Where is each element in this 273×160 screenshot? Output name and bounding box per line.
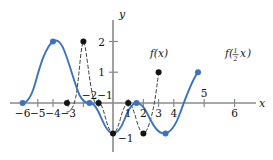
annotation-f-of-half-x-prefix: f( [224,47,234,59]
point-black-1-0 [125,100,131,106]
x-tick-label-6: 6 [231,107,238,119]
x-tick-label-neg5: −5 [30,107,45,119]
point-black-neg3-0 [64,100,70,106]
x-tick-label-1: 1 [125,107,132,119]
y-tick-label-1: 1 [98,66,105,78]
point-blue-6-1 [195,69,201,75]
point-black-2-neg1 [140,131,146,137]
y-axis-label: y [118,8,126,21]
annotation-f-of-x: f(x) [149,47,168,59]
x-tick-label-neg1: −1 [97,89,112,101]
marked-points-f-of-half-x [20,39,201,137]
point-black-peak-2 [80,39,86,45]
point-black-3-1 [156,69,162,75]
x-tick-label-neg4: −4 [45,107,61,119]
graph-svg: y x 2 1 −1 −6 −5 −4 −3 −2 −1 1 2 3 4 6 5… [0,0,273,160]
point-blue-neg4-2 [50,39,56,45]
curve-f-of-half-x [23,40,198,133]
x-tick-label-4: 4 [170,107,177,119]
x-tick-label-neg6: −6 [15,107,31,119]
y-tick-label-neg1: −1 [118,132,133,144]
function-graph-figure: y x 2 1 −1 −6 −5 −4 −3 −2 −1 1 2 3 4 6 5… [0,0,273,160]
annotation-f-of-half-x: f( 1 2 x ) [224,47,251,63]
x-axis-label: x [259,97,266,110]
point-blue-2-0 [134,100,140,106]
annotation-f-of-half-x-suffix: ) [246,47,251,59]
x-tick-label-5: 5 [201,87,208,99]
y-tick-label-2: 2 [98,36,105,48]
annotation-f-of-half-x-denominator: 2 [232,55,237,63]
x-tick-label-neg3: −3 [60,107,75,119]
point-blue-4-neg1 [163,131,169,137]
x-tick-label-2: 2 [140,107,147,119]
x-tick-label-3: 3 [155,107,162,119]
point-black-0-neg1 [110,131,116,137]
point-blue-neg6-0 [20,100,26,106]
annotation-f-of-half-x-variable: x [240,47,246,59]
x-tick-label-neg2: −2 [82,89,97,101]
